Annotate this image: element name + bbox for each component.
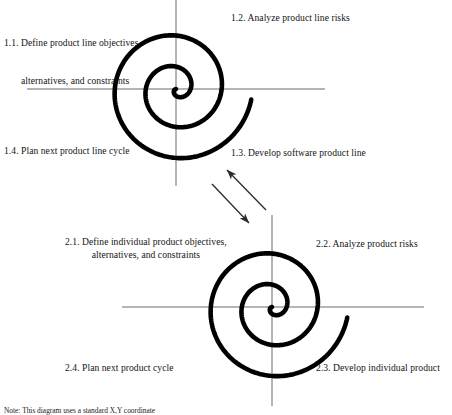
label-develop-software-product-line: 1.3. Develop software product line bbox=[231, 147, 366, 160]
label-plan-next-product-line-cycle: 1.4. Plan next product line cycle bbox=[4, 145, 130, 158]
label-line-1: 2.1. Define individual product objective… bbox=[65, 236, 227, 249]
individual-product-spiral-path bbox=[211, 253, 348, 376]
label-define-individual-product-objectives: 2.1. Define individual product objective… bbox=[65, 236, 227, 261]
label-develop-individual-product: 2.3. Develop individual product bbox=[316, 362, 440, 375]
spiral-diagram: 1.1. Define product line objectives, alt… bbox=[0, 0, 452, 415]
label-analyze-product-line-risks: 1.2. Analyze product line risks bbox=[231, 12, 350, 25]
label-line-2: alternatives, and constraints bbox=[4, 75, 141, 88]
connector-arrows-group bbox=[212, 170, 266, 223]
label-line-2: alternatives, and constraints bbox=[65, 249, 227, 262]
arrow-up-left-icon bbox=[227, 170, 266, 210]
label-analyze-product-risks: 2.2. Analyze product risks bbox=[316, 238, 418, 251]
label-line-1: 1.1. Define product line objectives, bbox=[4, 37, 141, 50]
figure-note: Note: This diagram uses a standard X,Y c… bbox=[4, 406, 155, 415]
spirals-group bbox=[115, 35, 348, 376]
arrow-down-right-icon bbox=[212, 184, 249, 223]
label-plan-next-product-cycle: 2.4. Plan next product cycle bbox=[65, 362, 174, 375]
label-define-product-line-objectives: 1.1. Define product line objectives, alt… bbox=[4, 12, 141, 113]
